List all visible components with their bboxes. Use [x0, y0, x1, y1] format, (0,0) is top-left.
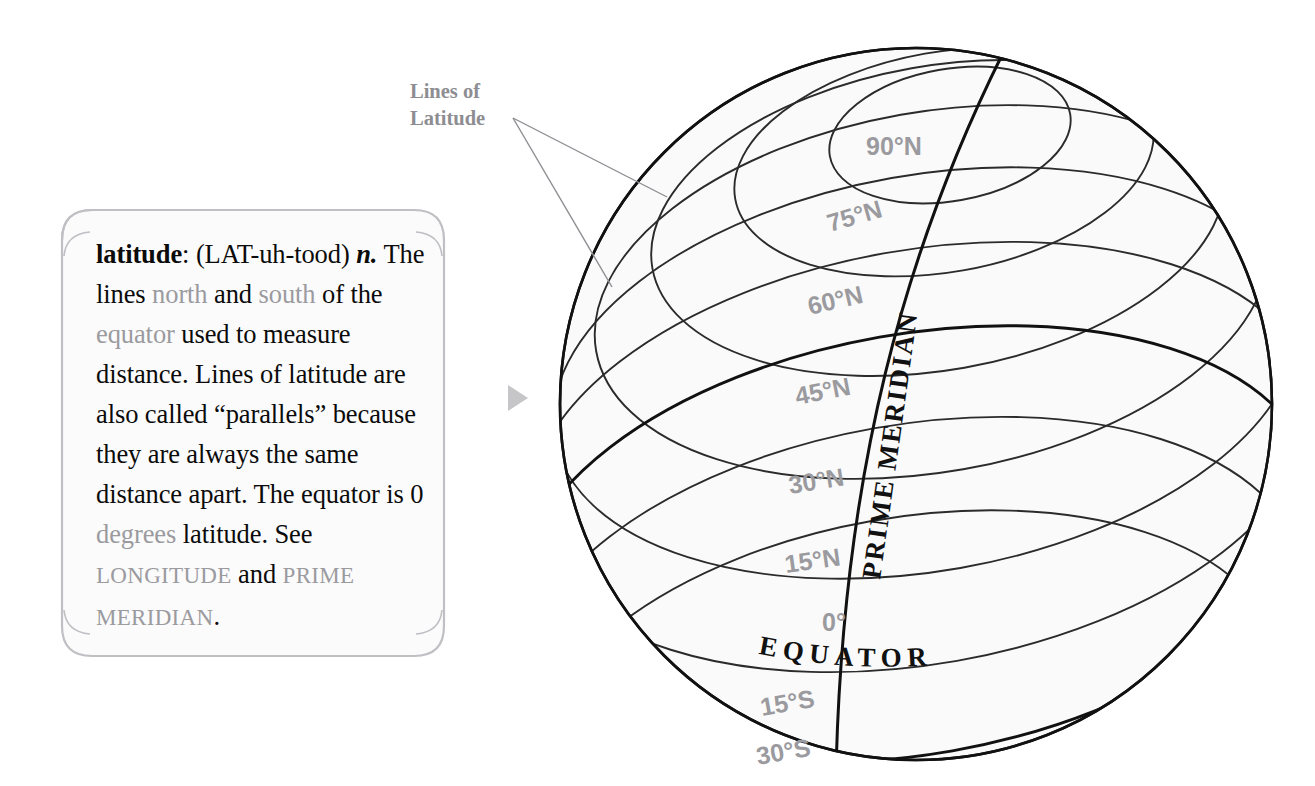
headword-colon: : [182, 239, 196, 269]
latitude-label-90n: 90°N [866, 132, 922, 160]
definition-seg-2: and [208, 279, 259, 309]
play-triangle-icon [508, 385, 528, 411]
part-of-speech: n. [356, 239, 377, 269]
diagram-stage: 90°N 75°N 60°N 45°N 30°N 15°N 0° 15°S 30… [0, 0, 1315, 786]
definition-card: latitude: (LAT-uh-tood) n. The lines nor… [60, 208, 446, 658]
definition-xref-equator: equator [96, 319, 175, 349]
definition-xref-south: south [259, 279, 316, 309]
callout-line-2: Latitude [410, 105, 520, 132]
latitude-label-30s: 30°S [754, 733, 813, 770]
definition-seg-4: of the [315, 279, 382, 309]
headword: latitude [96, 239, 182, 269]
callout-line-1: Lines of [410, 78, 520, 105]
definition-seg-12: . [213, 601, 220, 631]
latitude-label-0: 0° [822, 608, 846, 636]
definition-xref-north: north [152, 279, 207, 309]
callout-lines-of-latitude: Lines of Latitude [410, 78, 520, 132]
definition-body: latitude: (LAT-uh-tood) n. The lines nor… [96, 234, 428, 638]
definition-xref-degrees: degrees [96, 519, 176, 549]
definition-seg-10: and [232, 559, 283, 589]
definition-seg-8: latitude. See [176, 519, 312, 549]
pronunciation: (LAT-uh-tood) [196, 239, 350, 269]
definition-xref-longitude: LONGITUDE [96, 563, 232, 588]
